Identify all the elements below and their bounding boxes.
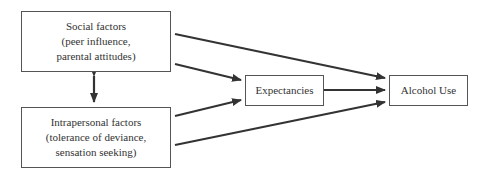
alcohol-use-label: Alcohol Use bbox=[401, 83, 456, 98]
intrapersonal-title: Intrapersonal factors bbox=[51, 115, 142, 130]
node-expectancies: Expectancies bbox=[245, 75, 324, 106]
node-intrapersonal-factors: Intrapersonal factors (tolerance of devi… bbox=[21, 107, 171, 168]
social-title: Social factors bbox=[66, 19, 126, 34]
expectancies-label: Expectancies bbox=[255, 83, 313, 98]
social-line2: (peer influence, bbox=[61, 34, 130, 49]
edge-social-to-expectancies bbox=[175, 64, 241, 80]
node-social-factors: Social factors (peer influence, parental… bbox=[21, 11, 171, 72]
node-alcohol-use: Alcohol Use bbox=[389, 75, 468, 106]
social-line3: parental attitudes) bbox=[56, 49, 135, 64]
edge-intrapersonal-to-expectancies bbox=[175, 100, 241, 116]
intrapersonal-line3: sensation seeking) bbox=[56, 145, 137, 160]
intrapersonal-line2: (tolerance of deviance, bbox=[46, 130, 146, 145]
